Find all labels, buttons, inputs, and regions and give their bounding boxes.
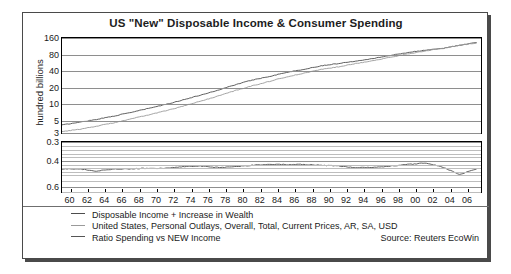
x-tick-mark: [364, 189, 365, 192]
x-tick-mark: [243, 189, 244, 192]
y-tick-label: 10: [25, 99, 59, 109]
x-tick-mark: [122, 189, 123, 192]
y-tick-label: 160: [25, 33, 59, 43]
y-axis-ticks-top: 1608040201053: [23, 37, 59, 134]
source-note: Source: Reuters EcoWin: [380, 233, 479, 243]
x-tick-mark: [278, 189, 279, 192]
x-tick-mark: [174, 189, 175, 192]
y-tick-label: 80: [25, 50, 59, 60]
legend-label: Disposable Income + Increase in Wealth: [92, 210, 253, 220]
gridline: [62, 121, 481, 122]
x-tick-mark: [192, 189, 193, 192]
gridline: [62, 104, 481, 105]
legend-item[interactable]: Disposable Income + Increase in Wealth: [71, 209, 481, 221]
x-tick-mark: [468, 189, 469, 192]
x-tick-mark: [416, 189, 417, 192]
x-tick-mark: [382, 189, 383, 192]
legend-color-swatch: [71, 236, 85, 237]
gridline: [62, 168, 481, 169]
chart-title: US "New" Disposable Income & Consumer Sp…: [23, 17, 489, 29]
ratio-plot-area: [61, 141, 482, 193]
y-tick-label: 40: [25, 66, 59, 76]
gridline: [62, 157, 481, 158]
levels-plot-area: [61, 37, 482, 134]
y-tick-label: 0.6: [25, 182, 59, 192]
x-tick-mark: [313, 189, 314, 192]
gridline: [62, 71, 481, 72]
x-tick-mark: [226, 189, 227, 192]
x-tick-mark: [140, 189, 141, 192]
gridline: [62, 55, 481, 56]
legend-color-swatch: [71, 225, 85, 226]
y-tick-label: 0.3: [25, 137, 59, 147]
gridline: [62, 172, 481, 173]
gridline: [62, 150, 481, 151]
x-tick-mark: [157, 189, 158, 192]
gridline: [62, 175, 481, 176]
x-tick-mark: [433, 189, 434, 192]
x-tick-mark: [399, 189, 400, 192]
legend-label: Ratio Spending vs NEW Income: [92, 233, 221, 243]
gridline: [62, 181, 481, 182]
y-tick-label: 5: [25, 116, 59, 126]
chart-screenshot: US "New" Disposable Income & Consumer Sp…: [0, 0, 511, 274]
chart-card: US "New" Disposable Income & Consumer Sp…: [22, 12, 488, 259]
x-tick-mark: [71, 189, 72, 192]
legend-item[interactable]: United States, Personal Outlays, Overall…: [71, 221, 481, 233]
x-tick-mark: [105, 189, 106, 192]
gridline: [62, 133, 481, 134]
legend-divider: [23, 206, 489, 207]
gridline: [62, 154, 481, 155]
gridline: [62, 38, 481, 39]
y-axis-ticks-bottom: 0.30.40.6: [23, 141, 59, 193]
x-tick-mark: [347, 189, 348, 192]
gridline: [62, 165, 481, 166]
gridline: [62, 161, 481, 162]
x-tick-mark: [88, 189, 89, 192]
legend-color-swatch: [71, 213, 85, 214]
x-tick-mark: [209, 189, 210, 192]
x-tick-mark: [330, 189, 331, 192]
x-tick-mark: [451, 189, 452, 192]
gridline: [62, 142, 481, 143]
x-tick-mark: [295, 189, 296, 192]
y-tick-label: 0.4: [25, 156, 59, 166]
gridline: [62, 88, 481, 89]
levels-series-svg: [62, 38, 481, 133]
legend-label: United States, Personal Outlays, Overall…: [92, 221, 397, 231]
x-tick-mark: [261, 189, 262, 192]
gridline: [62, 146, 481, 147]
gridline: [62, 192, 481, 193]
x-tick-label: 06: [457, 195, 477, 205]
y-tick-label: 20: [25, 83, 59, 93]
gridline: [62, 187, 481, 188]
